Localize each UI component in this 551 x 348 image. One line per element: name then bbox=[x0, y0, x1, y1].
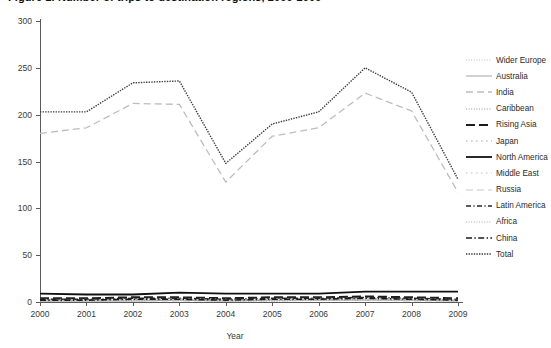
legend-item[interactable]: Australia bbox=[466, 68, 551, 84]
legend-item-label: Russia bbox=[496, 185, 521, 194]
chart-legend: Wider EuropeAustraliaIndiaCaribbeanRisin… bbox=[466, 52, 551, 262]
legend-swatch-icon bbox=[466, 201, 492, 211]
legend-item-label: Middle East bbox=[496, 169, 539, 178]
legend-swatch-icon bbox=[466, 185, 492, 195]
legend-swatch-icon bbox=[466, 104, 492, 114]
legend-swatch-icon bbox=[466, 217, 492, 227]
legend-item-label: North America bbox=[496, 153, 548, 162]
legend-item[interactable]: North America bbox=[466, 149, 551, 165]
chart-figure: Figure 1. Number of trips to destination… bbox=[0, 0, 551, 348]
legend-item-label: India bbox=[496, 88, 514, 97]
legend-item[interactable]: Total bbox=[466, 246, 551, 262]
legend-swatch-icon bbox=[466, 168, 492, 178]
legend-swatch-icon bbox=[466, 120, 492, 130]
series-line bbox=[40, 93, 458, 192]
legend-item-label: Caribbean bbox=[496, 104, 534, 113]
legend-swatch-icon bbox=[466, 87, 492, 97]
legend-swatch-icon bbox=[466, 249, 492, 259]
legend-item-label: Wider Europe bbox=[496, 56, 546, 65]
legend-item-label: Latin America bbox=[496, 201, 546, 210]
series-line bbox=[40, 292, 458, 295]
legend-item-label: China bbox=[496, 234, 517, 243]
legend-item[interactable]: Middle East bbox=[466, 165, 551, 181]
legend-item-label: Japan bbox=[496, 137, 518, 146]
legend-swatch-icon bbox=[466, 71, 492, 81]
legend-item-label: Australia bbox=[496, 72, 528, 81]
legend-item-label: Total bbox=[496, 250, 513, 259]
series-line bbox=[40, 68, 458, 179]
legend-item[interactable]: Japan bbox=[466, 133, 551, 149]
legend-swatch-icon bbox=[466, 152, 492, 162]
legend-item-label: Rising Asia bbox=[496, 120, 537, 129]
legend-item-label: Africa bbox=[496, 217, 517, 226]
legend-item[interactable]: Africa bbox=[466, 214, 551, 230]
legend-swatch-icon bbox=[466, 233, 492, 243]
legend-item[interactable]: Russia bbox=[466, 182, 551, 198]
legend-item[interactable]: China bbox=[466, 230, 551, 246]
legend-item[interactable]: Latin America bbox=[466, 198, 551, 214]
legend-item[interactable]: Caribbean bbox=[466, 101, 551, 117]
legend-item[interactable]: Rising Asia bbox=[466, 117, 551, 133]
x-axis-title: Year bbox=[0, 331, 470, 341]
legend-item[interactable]: India bbox=[466, 84, 551, 100]
legend-swatch-icon bbox=[466, 55, 492, 65]
legend-swatch-icon bbox=[466, 136, 492, 146]
legend-item[interactable]: Wider Europe bbox=[466, 52, 551, 68]
